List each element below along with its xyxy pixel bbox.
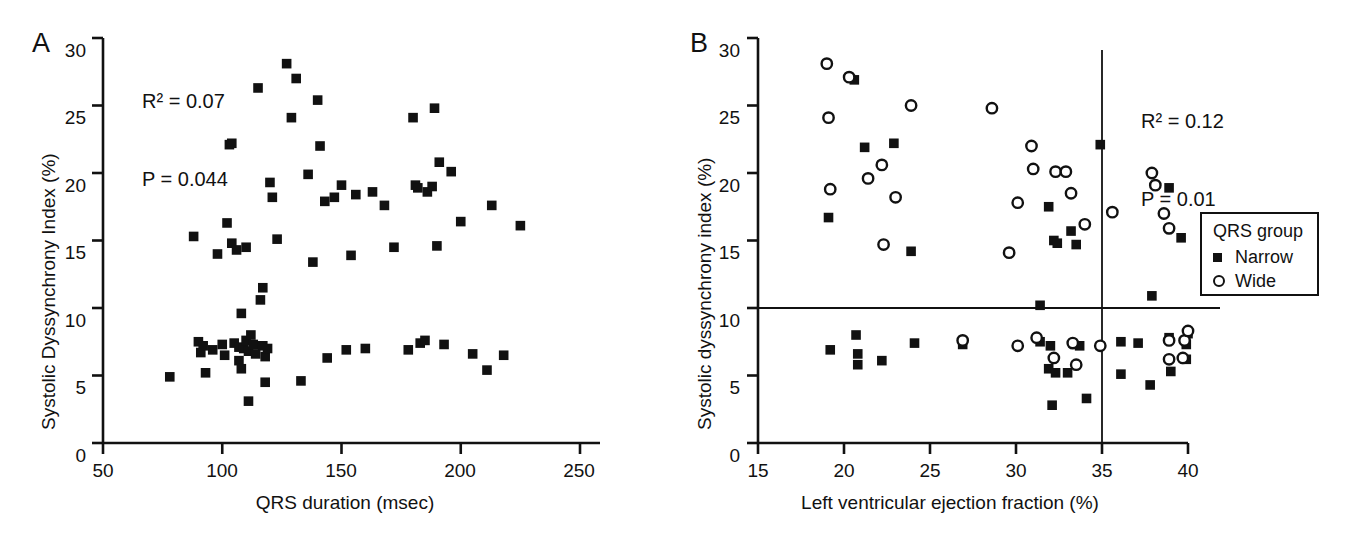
panel-a-data-points [165, 59, 525, 406]
panel-b-tick-marks [747, 38, 1188, 454]
panel-b: B R² = 0.12 P = 0.01 Systolic dyssynchro… [660, 0, 1346, 533]
panel-a-axis-lines [103, 38, 600, 443]
panel-a: A R² = 0.07 P = 0.044 Systolic Dyssynchr… [0, 0, 660, 533]
panel-b-axis-lines [758, 38, 1188, 443]
legend: QRS group Narrow Wide [1200, 212, 1319, 296]
legend-title: QRS group [1213, 221, 1307, 242]
legend-label-wide: Wide [1235, 271, 1276, 292]
legend-label-narrow: Narrow [1235, 247, 1293, 268]
panel-a-plot-area [0, 0, 660, 533]
filled-square-icon [1213, 253, 1229, 262]
panel-b-data-points [822, 58, 1194, 410]
legend-item-wide: Wide [1213, 269, 1307, 293]
panel-a-tick-marks [92, 38, 580, 454]
open-circle-icon [1213, 275, 1229, 287]
legend-item-narrow: Narrow [1213, 245, 1307, 269]
figure-root: A R² = 0.07 P = 0.044 Systolic Dyssynchr… [0, 0, 1346, 533]
